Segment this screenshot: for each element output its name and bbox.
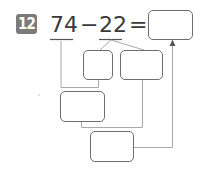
scan-artifact-dot: [38, 94, 40, 96]
partial-result-box[interactable]: [60, 91, 105, 122]
final-step-box[interactable]: [90, 131, 134, 162]
equals-sign: =: [129, 12, 147, 38]
operand-1: 74: [50, 12, 78, 38]
operand-2: 22: [99, 12, 127, 38]
answer-box[interactable]: [148, 10, 193, 40]
split-b-box[interactable]: [120, 50, 163, 80]
problem-number-badge: 12: [16, 14, 37, 34]
arrow-up-icon: [170, 40, 176, 47]
split-line-right: [111, 40, 144, 50]
minus-sign: −: [80, 12, 98, 38]
split-a-box[interactable]: [83, 50, 113, 80]
split-line-left: [100, 40, 111, 50]
